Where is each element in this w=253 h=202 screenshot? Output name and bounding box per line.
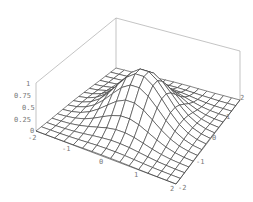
x-tick-label: -2	[28, 134, 36, 142]
y-tick-label: 1	[226, 113, 230, 121]
y-tick-label: 0	[212, 134, 216, 142]
y-tick-label: -1	[196, 158, 204, 166]
z-tick-label: 0.25	[14, 116, 31, 124]
gaussian-surface-mesh	[36, 68, 240, 184]
x-tick-label: -1	[62, 145, 70, 153]
z-tick-label: 1	[26, 80, 30, 88]
x-tick-label: 2	[170, 185, 174, 193]
z-axis: 1 0.75 0.5 0.25 0	[14, 80, 35, 135]
z-tick-label: 0.75	[14, 92, 31, 100]
y-tick-label: -2	[178, 184, 186, 192]
z-tick-label: 0.5	[22, 104, 35, 112]
x-tick-label: 0	[99, 158, 103, 166]
surface-plot: 1 0.75 0.5 0.25 0 -2 -1 0 1 2 -2 -1 0 1 …	[0, 0, 253, 202]
y-tick-label: 2	[240, 94, 244, 102]
x-tick-label: 1	[134, 171, 138, 179]
